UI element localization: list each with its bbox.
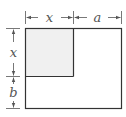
label-top-x: x	[46, 10, 54, 25]
shaded-square	[26, 29, 74, 77]
label-top-a: a	[94, 10, 102, 25]
top-dimension	[26, 11, 122, 24]
dimension-diagram: x a x b	[0, 0, 126, 117]
label-left-b: b	[9, 85, 17, 100]
label-left-x: x	[10, 45, 18, 60]
